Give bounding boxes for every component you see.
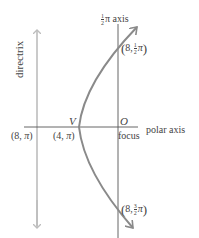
point-label-8-three-half-pi: (8,32π) <box>121 203 147 216</box>
diagram-canvas <box>0 0 199 238</box>
half-pi-axis-label: 12π axis <box>100 13 129 26</box>
point-label-4-pi: (4, π) <box>53 131 75 141</box>
point-label-8-half-pi: (8,12π) <box>121 42 147 55</box>
focus-label: focus <box>118 131 140 141</box>
origin-label: O <box>120 116 128 127</box>
vertex-label: V <box>69 116 76 127</box>
polar-axis-label: polar axis <box>146 125 185 135</box>
half-pi-fraction: 12 <box>101 13 104 26</box>
point-label-8-pi: (8, π) <box>11 131 33 141</box>
directrix-label: directrix <box>14 41 25 78</box>
